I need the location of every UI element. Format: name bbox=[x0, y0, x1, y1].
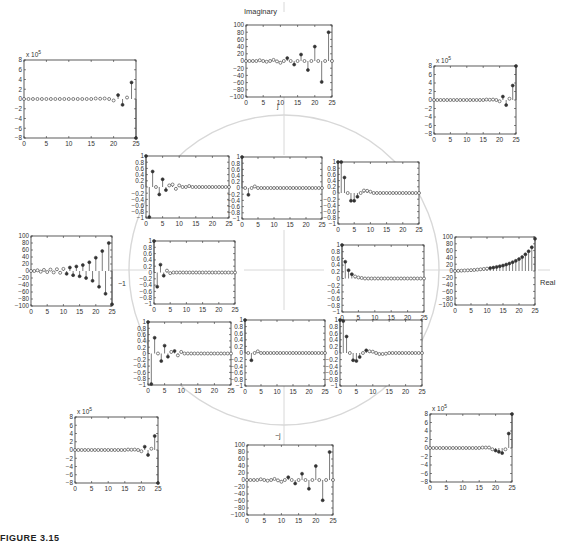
stem-marker bbox=[439, 99, 442, 102]
y-tick-label: −0.2 bbox=[228, 191, 241, 198]
y-tick-label: 2 bbox=[424, 436, 428, 443]
stem-marker bbox=[74, 449, 77, 452]
stem-marker bbox=[476, 268, 479, 271]
stem-marker bbox=[314, 352, 317, 355]
stem-marker bbox=[486, 267, 489, 270]
stem-marker bbox=[252, 479, 255, 482]
y-tick-label: −0.8 bbox=[132, 208, 145, 215]
stem-marker bbox=[250, 359, 253, 362]
stem-plot-bottom-left-outer: −8−6−4−2024680510152025x 105 bbox=[66, 406, 162, 492]
stem-marker bbox=[320, 352, 323, 355]
stem-marker bbox=[200, 352, 203, 355]
stem-marker bbox=[211, 186, 214, 189]
stem-marker bbox=[465, 447, 468, 450]
y-tick-label: 0.2 bbox=[143, 263, 152, 270]
stem-marker bbox=[110, 449, 113, 452]
stem-marker bbox=[332, 479, 335, 482]
y-tick-label: −0.2 bbox=[231, 356, 244, 363]
stem-marker bbox=[93, 449, 96, 452]
stem-marker bbox=[432, 447, 435, 450]
x-tick-label: 5 bbox=[445, 484, 449, 491]
stem-marker bbox=[175, 271, 178, 274]
stem-marker bbox=[185, 271, 188, 274]
stem-marker bbox=[99, 97, 102, 100]
stem-marker bbox=[409, 277, 412, 280]
stem-marker bbox=[269, 352, 272, 355]
stem-marker bbox=[311, 479, 314, 482]
stem-marker bbox=[391, 352, 394, 355]
stem-marker bbox=[224, 186, 227, 189]
stem-marker bbox=[505, 104, 508, 107]
stem-marker bbox=[266, 479, 269, 482]
y-tick-label: −0.8 bbox=[328, 302, 341, 309]
y-tick-label: 4 bbox=[424, 427, 428, 434]
stem-marker bbox=[366, 189, 369, 192]
stem-marker bbox=[257, 187, 260, 190]
x-tick-label: 20 bbox=[311, 99, 319, 106]
stem-marker bbox=[230, 271, 233, 274]
stem-marker bbox=[482, 267, 485, 270]
stem-marker bbox=[162, 274, 165, 277]
stem-marker bbox=[259, 478, 262, 481]
stem-marker bbox=[90, 98, 93, 101]
x-tick-label: 0 bbox=[243, 388, 247, 395]
stem-marker bbox=[88, 261, 91, 264]
stem-marker bbox=[83, 449, 86, 452]
stem-marker bbox=[378, 352, 381, 355]
y-tick-label: 60 bbox=[237, 36, 245, 43]
stem-marker bbox=[49, 268, 52, 271]
y-tick-label: −100 bbox=[439, 301, 454, 308]
stem-marker bbox=[121, 103, 124, 106]
stem-marker bbox=[36, 269, 39, 272]
stem-marker bbox=[320, 80, 323, 83]
stem-marker bbox=[208, 186, 211, 189]
stem-marker bbox=[304, 352, 307, 355]
stem-marker bbox=[196, 352, 199, 355]
x-tick-label: 15 bbox=[476, 484, 484, 491]
x-tick-label: 0 bbox=[29, 308, 33, 315]
stem-marker bbox=[33, 270, 36, 273]
stem-marker bbox=[280, 480, 283, 483]
stem-marker bbox=[23, 98, 26, 101]
y-tick-label: 0.2 bbox=[231, 178, 240, 185]
stem-marker bbox=[204, 271, 207, 274]
stem-plot-bottom-right-outer: −8−6−4−2024680510152025x 105 bbox=[421, 403, 516, 491]
y-tick-label: −0.4 bbox=[228, 197, 241, 204]
stem-marker bbox=[438, 447, 441, 450]
stem-marker bbox=[263, 352, 266, 355]
stem-marker bbox=[174, 187, 177, 190]
stem-marker bbox=[306, 69, 309, 72]
x-tick-label: 15 bbox=[386, 388, 394, 395]
stem-marker bbox=[393, 277, 396, 280]
stem-marker bbox=[260, 187, 263, 190]
y-tick-label: 0.4 bbox=[234, 336, 243, 343]
y-multiplier: x 105 bbox=[26, 49, 41, 58]
y-tick-label: −0.2 bbox=[328, 282, 341, 289]
stem-marker bbox=[81, 264, 84, 267]
stem-marker bbox=[377, 277, 380, 280]
stem-marker bbox=[270, 479, 273, 482]
stem-marker bbox=[188, 185, 191, 188]
stem-marker bbox=[166, 355, 169, 358]
stem-marker bbox=[295, 352, 298, 355]
stem-marker bbox=[218, 186, 221, 189]
stem-plot-inner-top-center: −1−0.8−0.6−0.4−0.200.20.40.60.8105101520… bbox=[228, 153, 326, 228]
x-tick-label: 20 bbox=[399, 226, 407, 233]
y-tick-label: 0.2 bbox=[327, 183, 336, 190]
stem-marker bbox=[308, 187, 311, 190]
stem-plot-top-center-outer: −100−80−60−40−200204060801000510152025 bbox=[230, 21, 336, 106]
stem-marker bbox=[36, 98, 39, 101]
stem-marker bbox=[388, 192, 391, 195]
y-tick-label: −0.4 bbox=[134, 362, 147, 369]
stem-marker bbox=[246, 479, 249, 482]
stem-marker bbox=[171, 183, 174, 186]
stem-marker bbox=[331, 60, 334, 63]
stem-marker bbox=[276, 187, 279, 190]
stem-marker bbox=[385, 192, 388, 195]
y-tick-label: −0.2 bbox=[132, 190, 145, 197]
x-tick-label: 5 bbox=[449, 136, 453, 143]
stem-marker bbox=[67, 98, 70, 101]
stem-marker bbox=[414, 192, 417, 195]
y-multiplier: x 105 bbox=[77, 406, 92, 415]
stem-marker bbox=[201, 186, 204, 189]
